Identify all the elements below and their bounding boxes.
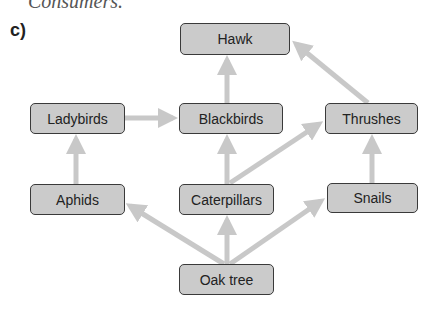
node-caterpillars: Caterpillars xyxy=(179,184,274,215)
node-aphids: Aphids xyxy=(30,184,125,215)
node-blackbirds: Blackbirds xyxy=(179,103,283,134)
node-thrushes: Thrushes xyxy=(325,103,418,134)
node-snails: Snails xyxy=(327,183,418,213)
node-oak-tree: Oak tree xyxy=(179,264,274,295)
arrow-thrushes-to-hawk xyxy=(296,44,368,103)
node-hawk: Hawk xyxy=(180,23,290,55)
node-ladybirds: Ladybirds xyxy=(30,103,125,134)
